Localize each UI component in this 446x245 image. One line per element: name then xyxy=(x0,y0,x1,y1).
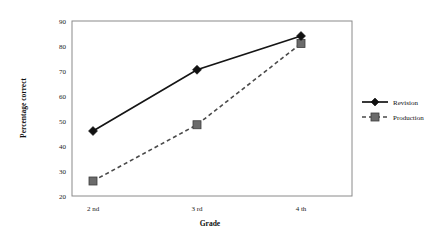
x-category-label-1: 3 rd xyxy=(191,205,203,213)
legend-label-revision: Revision xyxy=(393,99,418,107)
y-tick-label-50: 50 xyxy=(59,118,67,126)
legend-label-production: Production xyxy=(393,114,424,122)
legend-marker-revision xyxy=(371,98,379,106)
chart-legend: Revision Production xyxy=(358,92,444,124)
y-tick-label-20: 20 xyxy=(59,193,67,201)
y-tick-label-40: 40 xyxy=(59,143,67,151)
y-tick-label-60: 60 xyxy=(59,93,67,101)
legend-item-revision: Revision xyxy=(362,98,418,107)
legend-item-production: Production xyxy=(362,113,424,122)
y-axis-title: Percentage correct xyxy=(19,78,28,138)
y-tick-label-90: 90 xyxy=(59,18,67,26)
y-tick-label-80: 80 xyxy=(59,43,67,51)
x-category-label-2: 4 th xyxy=(296,205,307,213)
chart-canvas: 90 80 70 60 50 40 30 20 Percentage corre… xyxy=(0,0,446,245)
y-tick-label-30: 30 xyxy=(59,168,67,176)
x-axis-title: Grade xyxy=(200,219,221,228)
x-category-label-0: 2 nd xyxy=(87,205,100,213)
data-point-production-1 xyxy=(193,121,201,129)
line-chart-figure: 90 80 70 60 50 40 30 20 Percentage corre… xyxy=(0,0,446,245)
legend-marker-production xyxy=(371,113,379,121)
y-tick-label-70: 70 xyxy=(59,68,67,76)
data-point-production-0 xyxy=(89,177,97,185)
